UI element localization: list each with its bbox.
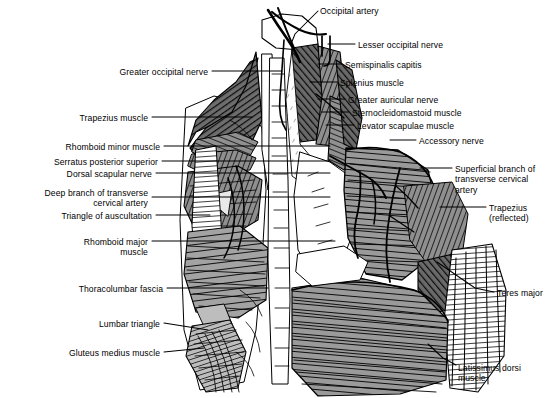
label-levator-scapulae-muscle: Levator scapulae muscle xyxy=(357,121,454,131)
label-greater-occipital-nerve: Greater occipital nerve xyxy=(120,67,208,77)
label-layer: Occipital arteryLesser occipital nerveSe… xyxy=(0,0,560,398)
label-rhomboid-minor-muscle: Rhomboid minor muscle xyxy=(66,142,160,152)
anatomy-figure: Occipital arteryLesser occipital nerveSe… xyxy=(0,0,560,398)
label-splenius-muscle: Splenius muscle xyxy=(340,78,404,88)
label-lesser-occipital-nerve: Lesser occipital nerve xyxy=(358,40,443,50)
label-dorsal-scapular-nerve: Dorsal scapular nerve xyxy=(67,169,152,179)
label-trapezius-reflected: Trapezius (reflected) xyxy=(489,203,529,224)
label-greater-auricular-nerve: Greater auricular nerve xyxy=(348,95,438,105)
label-trapezius-muscle: Trapezius muscle xyxy=(80,113,148,123)
label-semispinalis-capitis: Semispinalis capitis xyxy=(345,60,422,70)
label-occipital-artery: Occipital artery xyxy=(320,6,379,16)
label-superficial-branch-tca: Superficial branch of transverse cervica… xyxy=(455,164,535,195)
label-latissimus-dorsi-muscle: Latissimus dorsi muscle xyxy=(458,363,521,384)
label-triangle-of-auscultation: Triangle of auscultation xyxy=(61,211,152,221)
label-deep-branch-tca: Deep branch of transverse cervical arter… xyxy=(45,188,148,209)
label-sternocleidomastoid-muscle: Sternocleidomastoid muscle xyxy=(352,108,462,118)
label-serratus-posterior-superior: Serratus posterior superior xyxy=(54,157,158,167)
label-lumbar-triangle: Lumbar triangle xyxy=(99,319,160,329)
label-accessory-nerve: Accessory nerve xyxy=(419,136,484,146)
label-rhomboid-major-muscle: Rhomboid major muscle xyxy=(84,237,148,258)
label-teres-major: Teres major xyxy=(497,288,543,298)
label-thoracolumbar-fascia: Thoracolumbar fascia xyxy=(79,284,163,294)
label-gluteus-medius-muscle: Gluteus medius muscle xyxy=(69,348,160,358)
